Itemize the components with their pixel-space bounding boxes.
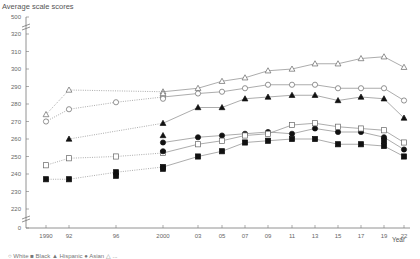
series-line [292, 123, 315, 125]
data-point-square [312, 121, 317, 126]
series-line [116, 97, 163, 102]
series-line [315, 85, 338, 89]
data-point-circle [312, 126, 317, 131]
x-tick-label: 07 [242, 233, 249, 239]
series-line [198, 136, 222, 138]
data-point-triangle [401, 64, 407, 69]
x-tick-label: 92 [66, 233, 73, 239]
series-line [384, 88, 404, 100]
series-line [198, 92, 222, 94]
data-point-circle [401, 147, 406, 152]
y-tick-label: 250 [11, 154, 22, 160]
data-point-circle [66, 107, 71, 112]
data-point-triangle [66, 136, 72, 141]
data-point-circle [195, 91, 200, 96]
series-line [198, 151, 222, 156]
data-point-square [381, 143, 386, 148]
series-line [198, 81, 222, 88]
data-point-triangle [312, 61, 318, 66]
y-tick-label: 0 [18, 225, 22, 231]
series-line [69, 102, 116, 109]
data-point-square [43, 177, 48, 182]
data-point-circle [160, 140, 165, 145]
data-point-circle [358, 86, 363, 91]
y-tick-label: 310 [11, 49, 22, 55]
data-point-circle [195, 135, 200, 140]
series-line [292, 129, 315, 134]
data-point-square [43, 163, 48, 168]
series-line [361, 144, 384, 146]
data-point-square [219, 138, 224, 143]
data-point-circle [401, 98, 406, 103]
series-line [268, 95, 292, 97]
data-point-square [312, 136, 317, 141]
series-line [116, 153, 163, 157]
series-line [222, 88, 245, 92]
x-tick-label: 2000 [156, 233, 170, 239]
series-line [163, 108, 198, 124]
series-line [245, 97, 268, 99]
series-line [69, 90, 163, 92]
data-point-square [289, 122, 294, 127]
series-line [245, 134, 268, 136]
series-line [338, 97, 361, 101]
y-tick-label: 230 [11, 189, 22, 195]
series-line [268, 69, 292, 71]
data-point-triangle [289, 92, 295, 97]
series-line [315, 139, 338, 144]
data-point-triangle [312, 92, 318, 97]
data-point-square [265, 138, 270, 143]
data-point-circle [160, 96, 165, 101]
series-line [245, 71, 268, 78]
series-line [361, 57, 384, 59]
data-point-square [242, 133, 247, 138]
x-tick-label: 05 [219, 233, 226, 239]
data-point-triangle [381, 54, 387, 59]
series-line [315, 129, 338, 133]
series-line [268, 125, 292, 134]
data-point-circle [265, 82, 270, 87]
data-point-circle [242, 86, 247, 91]
y-tick-label: 320 [11, 31, 22, 37]
x-tick-label: 22 [401, 233, 408, 239]
x-tick-label: 11 [289, 233, 296, 239]
data-point-square [401, 154, 406, 159]
data-point-circle [160, 149, 165, 154]
series-line [222, 136, 245, 141]
series-line [222, 143, 245, 152]
series-line [245, 85, 268, 89]
data-point-circle [113, 100, 118, 105]
series-line [245, 141, 268, 143]
data-point-circle [335, 129, 340, 134]
series-line [315, 95, 338, 100]
data-point-square [381, 138, 386, 143]
y-tick-label: 290 [11, 84, 22, 90]
series-line [361, 132, 384, 137]
x-tick-label: 17 [358, 233, 365, 239]
series-line [163, 137, 198, 142]
y-tick-label: 270 [11, 119, 22, 125]
series-line [222, 99, 245, 108]
series-line [315, 123, 338, 127]
data-point-square [401, 140, 406, 145]
series-line [384, 57, 404, 68]
series-line [116, 167, 163, 172]
series-line [69, 157, 116, 159]
data-point-triangle [358, 94, 364, 99]
data-point-square [265, 131, 270, 136]
data-point-circle [289, 82, 294, 87]
series-line [361, 129, 384, 131]
data-point-circle [219, 89, 224, 94]
data-point-circle [219, 133, 224, 138]
y-tick-label: 220 [11, 206, 22, 212]
x-tick-label: 96 [113, 233, 120, 239]
data-point-triangle [195, 105, 201, 110]
data-point-square [160, 166, 165, 171]
series-line [245, 132, 268, 134]
x-tick-label: 1990 [39, 233, 53, 239]
series-line [163, 144, 198, 153]
series-line [69, 172, 116, 179]
y-tick-label: 280 [11, 101, 22, 107]
data-point-square [219, 149, 224, 154]
series-line [268, 139, 292, 141]
